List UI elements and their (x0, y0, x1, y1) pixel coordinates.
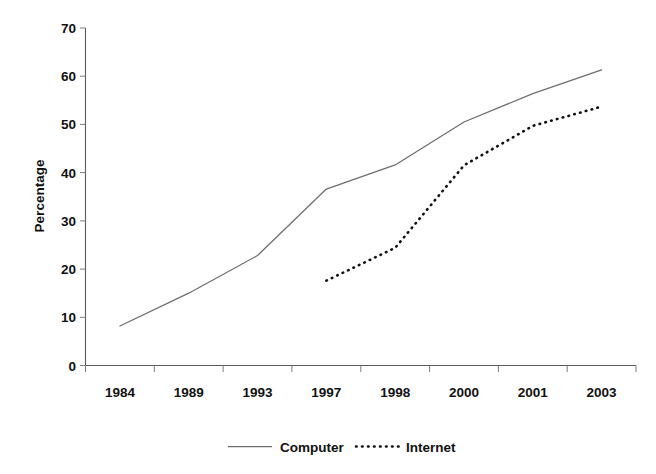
y-tick-label: 0 (68, 359, 76, 374)
y-axis-tick-marks (80, 28, 86, 366)
x-tick-label: 2003 (587, 385, 618, 400)
legend-label-internet: Internet (406, 440, 456, 455)
series-line-internet (326, 107, 601, 281)
x-axis-tick-marks (86, 366, 637, 373)
x-tick-label: 1984 (105, 385, 136, 400)
chart-canvas: Percentage 010203040506070 1984198919931… (0, 0, 656, 474)
y-tick-label: 50 (61, 117, 76, 132)
y-axis-title: Percentage (32, 159, 47, 232)
x-tick-label: 1998 (380, 385, 411, 400)
x-axis-tick-labels: 19841989199319971998200020012003 (105, 385, 617, 400)
series-line-computer (120, 70, 602, 326)
y-tick-label: 60 (61, 69, 76, 84)
y-tick-label: 70 (61, 21, 76, 36)
y-tick-label: 20 (61, 262, 76, 277)
y-axis-tick-labels: 010203040506070 (61, 21, 76, 374)
y-tick-label: 30 (61, 214, 76, 229)
y-tick-label: 10 (61, 310, 76, 325)
legend-label-computer: Computer (280, 440, 344, 455)
chart-legend: Computer Internet (228, 440, 456, 455)
x-tick-label: 2001 (518, 385, 549, 400)
x-tick-label: 2000 (449, 385, 479, 400)
y-tick-label: 40 (61, 166, 76, 181)
x-tick-label: 1989 (174, 385, 204, 400)
x-tick-label: 1997 (311, 385, 341, 400)
x-tick-label: 1993 (242, 385, 273, 400)
line-chart: Percentage 010203040506070 1984198919931… (0, 0, 656, 474)
